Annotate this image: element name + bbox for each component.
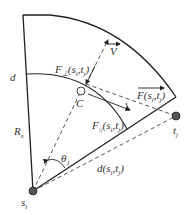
label-d: d <box>10 71 16 83</box>
center-node <box>77 87 85 95</box>
label-f-total: F(si,tj) <box>136 89 165 104</box>
sector-diagram: d Rs θ1 V si tj C F⊥(si,tj) F||(si,tj) F… <box>0 0 195 215</box>
f-par-arrow <box>88 94 130 110</box>
label-source: si <box>21 196 27 211</box>
sector-right-edge <box>33 97 176 191</box>
label-velocity: V <box>110 45 118 57</box>
label-center: C <box>76 97 84 109</box>
sector-left-edge <box>23 15 33 191</box>
f-par-bracket <box>126 103 129 111</box>
source-node <box>29 187 37 195</box>
target-node <box>172 112 180 120</box>
label-radius: Rs <box>13 125 24 140</box>
label-distance: d(si,tj) <box>97 162 124 177</box>
label-f-parallel: F||(si,tj) <box>91 119 124 134</box>
label-target: tj <box>173 124 178 139</box>
